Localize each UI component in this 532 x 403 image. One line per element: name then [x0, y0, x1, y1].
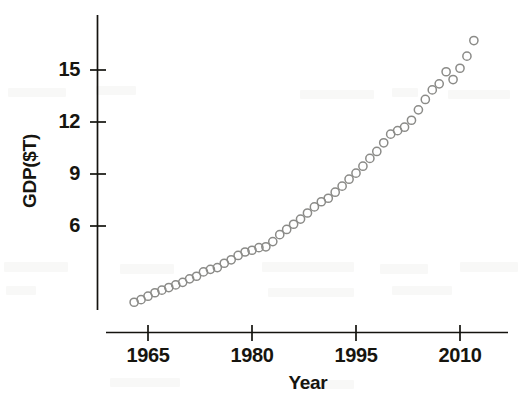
x-tick-label-1980: 1980 — [212, 344, 292, 367]
data-point — [338, 182, 346, 190]
data-point — [296, 215, 304, 223]
data-point — [331, 188, 339, 196]
data-point — [463, 52, 471, 60]
data-point — [345, 175, 353, 183]
data-point — [456, 64, 464, 72]
data-point — [421, 95, 429, 103]
data-point — [324, 194, 332, 202]
x-tick-label-1965: 1965 — [108, 344, 188, 367]
data-point — [470, 36, 478, 44]
data-point — [449, 75, 457, 83]
y-tick-label-9: 9 — [36, 162, 80, 185]
y-axis-title: GDP($T) — [19, 111, 41, 231]
x-tick-label-1995: 1995 — [316, 344, 396, 367]
data-point — [269, 238, 277, 246]
data-point — [428, 86, 436, 94]
data-point — [407, 116, 415, 124]
data-point — [435, 80, 443, 88]
data-point-series — [130, 36, 478, 306]
data-point — [414, 106, 422, 114]
data-point — [400, 123, 408, 131]
x-tick-label-2010: 2010 — [420, 344, 500, 367]
data-point — [442, 68, 450, 76]
data-point — [352, 169, 360, 177]
data-point — [380, 139, 388, 147]
y-tick-label-6: 6 — [36, 214, 80, 237]
x-axis-title: Year — [258, 372, 358, 394]
data-point — [373, 147, 381, 155]
data-point — [359, 162, 367, 170]
y-tick-label-15: 15 — [36, 58, 80, 81]
data-point — [303, 209, 311, 217]
data-point — [366, 154, 374, 162]
y-tick-label-12: 12 — [36, 110, 80, 133]
gdp-scatter-chart-figure: 15 12 9 6 1965 1980 1995 2010 GDP($T) Ye… — [0, 0, 532, 403]
